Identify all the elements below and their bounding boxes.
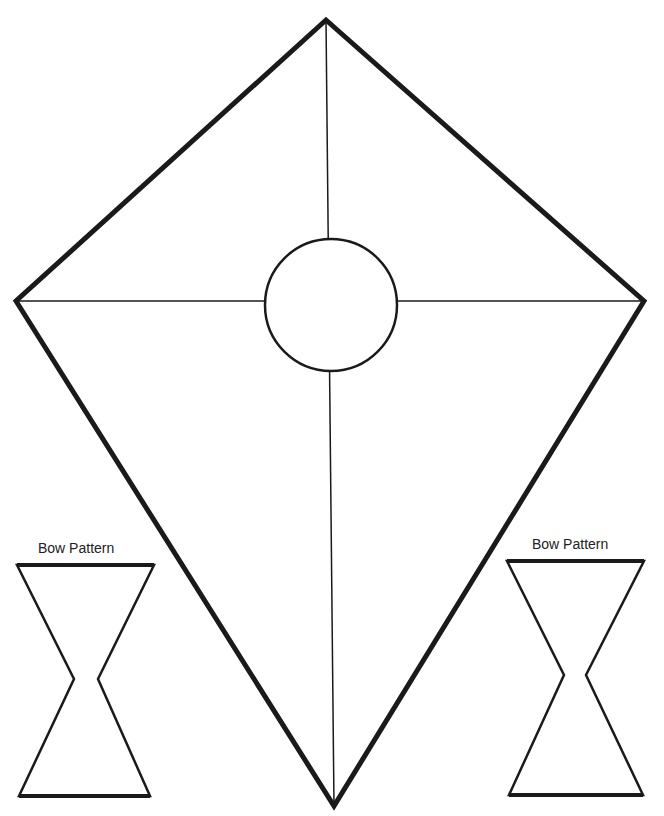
bow-pattern-right — [507, 561, 644, 795]
vertical-spar — [326, 20, 334, 806]
bow-pattern-label-right: Bow Pattern — [532, 536, 608, 552]
bow-pattern-label-left: Bow Pattern — [38, 540, 114, 556]
kite-template — [0, 0, 664, 816]
center-circle — [265, 239, 397, 371]
bow-pattern-left — [17, 565, 154, 796]
